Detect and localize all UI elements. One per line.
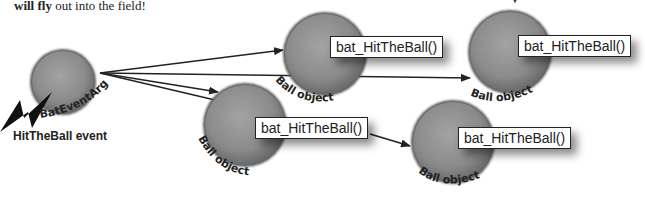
- method-box-2: bat_HitTheBall(): [518, 35, 631, 57]
- method-box-1: bat_HitTheBall(): [330, 36, 443, 58]
- method-box-3: bat_HitTheBall(): [255, 117, 368, 139]
- arrow-to-ball-3: [100, 73, 218, 100]
- method-box-4: bat_HitTheBall(): [458, 127, 571, 149]
- event-diagram: BatEventArgs Ball object Ball object Bal…: [0, 0, 645, 200]
- arrow-to-ball-4: [370, 134, 410, 146]
- event-name-label: HitTheBall event: [13, 129, 107, 143]
- arrow-to-ball-1: [100, 50, 283, 73]
- arrow-incoming-top: [511, 0, 519, 2]
